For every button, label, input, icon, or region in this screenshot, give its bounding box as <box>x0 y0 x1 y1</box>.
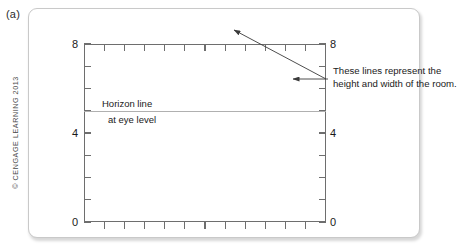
tick-label-right-4: 4 <box>330 128 348 139</box>
tick-bottom-8 <box>245 222 246 229</box>
annotation-line-1: These lines represent the <box>333 64 457 77</box>
tick-top-7 <box>225 44 226 51</box>
tick-top-4 <box>164 44 165 51</box>
tick-left-4 <box>84 132 91 133</box>
tick-left-7 <box>84 66 91 67</box>
figure-card: Horizon line at eye level 840840 <box>28 8 420 238</box>
tick-right-8 <box>319 43 326 44</box>
tick-left-1 <box>84 199 91 200</box>
tick-bottom-5 <box>184 222 185 229</box>
tick-left-5 <box>84 110 91 111</box>
tick-top-2 <box>124 44 125 51</box>
tick-top-10 <box>285 44 286 51</box>
tick-bottom-7 <box>225 222 226 229</box>
panel-label: (a) <box>6 8 20 20</box>
tick-right-1 <box>319 199 326 200</box>
tick-label-left-0: 0 <box>60 217 78 228</box>
tick-top-1 <box>104 44 105 51</box>
tick-top-3 <box>144 44 145 51</box>
tick-top-8 <box>245 44 246 51</box>
annotation-line-2: height and width of the room. <box>333 77 457 90</box>
annotation-callout: These lines represent the height and wid… <box>333 64 457 90</box>
tick-bottom-11 <box>305 222 306 229</box>
tick-bottom-4 <box>164 222 165 229</box>
figure-root: (a) © CENGAGE LEARNING 2013 Horizon line… <box>0 0 467 250</box>
tick-left-3 <box>84 155 91 156</box>
tick-left-8 <box>84 43 91 44</box>
tick-right-4 <box>319 132 326 133</box>
tick-bottom-10 <box>285 222 286 229</box>
tick-bottom-3 <box>144 222 145 229</box>
tick-top-5 <box>184 44 185 51</box>
horizon-line <box>84 111 326 112</box>
tick-right-2 <box>319 177 326 178</box>
copyright-notice: © CENGAGE LEARNING 2013 <box>11 73 20 193</box>
tick-left-0 <box>84 221 91 222</box>
tick-right-0 <box>319 221 326 222</box>
tick-label-left-8: 8 <box>60 39 78 50</box>
horizon-label-top: Horizon line <box>102 98 152 110</box>
tick-top-6 <box>204 44 205 51</box>
horizon-label-bottom: at eye level <box>108 114 156 126</box>
tick-left-2 <box>84 177 91 178</box>
tick-top-11 <box>305 44 306 51</box>
tick-left-6 <box>84 88 91 89</box>
tick-label-left-4: 4 <box>60 128 78 139</box>
perspective-grid-plot: Horizon line at eye level 840840 <box>84 44 326 222</box>
tick-bottom-2 <box>124 222 125 229</box>
tick-bottom-6 <box>204 222 205 229</box>
tick-top-9 <box>265 44 266 51</box>
tick-right-7 <box>319 66 326 67</box>
tick-label-right-8: 8 <box>330 39 348 50</box>
tick-bottom-1 <box>104 222 105 229</box>
tick-right-5 <box>319 110 326 111</box>
tick-right-3 <box>319 155 326 156</box>
tick-bottom-9 <box>265 222 266 229</box>
tick-label-right-0: 0 <box>330 217 348 228</box>
tick-right-6 <box>319 88 326 89</box>
